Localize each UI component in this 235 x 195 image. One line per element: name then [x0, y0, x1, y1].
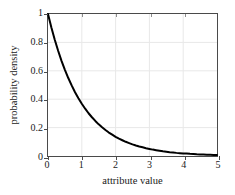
x-tick-label: 2	[113, 160, 118, 170]
x-tick-mark-top	[82, 14, 83, 17]
x-tick-mark-top	[116, 14, 117, 17]
y-tick-label: 0	[38, 152, 43, 162]
y-tick-label: 0.6	[31, 66, 44, 76]
x-tick-label: 5	[216, 160, 221, 170]
x-tick-mark-top	[185, 14, 186, 17]
y-tick-mark	[44, 43, 48, 44]
plot-area	[47, 13, 218, 157]
x-tick-mark-top	[151, 14, 152, 17]
exponential-density-chart: 012345 00.20.40.60.81 attribute value pr…	[0, 0, 235, 195]
y-tick-label: 0.2	[31, 123, 44, 133]
x-tick-label: 4	[181, 160, 186, 170]
x-tick-label: 1	[79, 160, 84, 170]
y-tick-mark	[44, 100, 48, 101]
y-tick-label: 0.8	[31, 37, 44, 47]
x-axis-title: attribute value	[47, 175, 218, 186]
data-curve-layer	[48, 14, 217, 156]
y-tick-mark	[44, 72, 48, 73]
y-axis-title: probability density	[8, 45, 19, 124]
x-tick-label: 3	[147, 160, 152, 170]
y-tick-mark	[44, 129, 48, 130]
y-tick-label: 0.4	[31, 94, 44, 104]
series-exponential-density	[48, 14, 217, 155]
y-tick-mark	[44, 14, 48, 15]
x-tick-label: 0	[45, 160, 50, 170]
y-tick-label: 1	[38, 8, 43, 18]
